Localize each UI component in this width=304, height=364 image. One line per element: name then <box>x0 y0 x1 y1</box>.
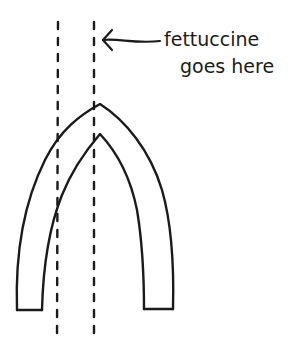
left-dashed-guide <box>57 22 58 340</box>
diagram-canvas: fettuccine goes here <box>0 0 304 364</box>
annotation-line-1: fettuccine <box>164 28 259 50</box>
arrow-shaft <box>103 40 160 42</box>
annotation-arrow <box>103 30 160 50</box>
annotation-line-2: goes here <box>180 55 274 77</box>
